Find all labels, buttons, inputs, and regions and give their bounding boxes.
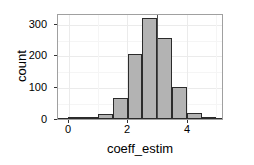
histogram-bar: [113, 98, 128, 119]
gridline-minor-vertical: [216, 15, 217, 119]
histogram-bar: [172, 87, 187, 119]
x-axis-title: coeff_estim: [57, 141, 223, 157]
axis-baseline: [58, 118, 222, 119]
gridline-major-vertical: [69, 15, 70, 119]
y-tick-label: 100: [21, 82, 47, 93]
y-tick-label: 200: [21, 50, 47, 61]
y-tick-label: 300: [21, 19, 47, 30]
x-tick-label: 4: [175, 124, 199, 135]
histogram-plot: count 300 200 100 0: [0, 0, 254, 165]
x-axis-tick-labels: 0 2 4: [0, 124, 254, 138]
histogram-bar: [157, 38, 172, 119]
histogram-bar: [128, 54, 143, 119]
histogram-bar: [142, 18, 157, 119]
x-tick-label: 2: [115, 124, 139, 135]
gridline-minor-horizontal: [58, 41, 222, 42]
plot-panel: [57, 14, 223, 120]
gridline-minor-vertical: [98, 15, 99, 119]
y-axis-tick-labels: 300 200 100 0: [21, 0, 47, 165]
reference-line-vertical: [157, 15, 158, 119]
x-tick-label: 0: [56, 124, 80, 135]
gridline-major-horizontal: [58, 25, 222, 26]
gridline-major-vertical: [187, 15, 188, 119]
